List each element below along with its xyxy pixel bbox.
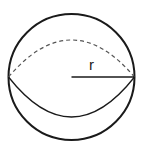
equator-front <box>9 77 135 117</box>
sphere-diagram: r <box>0 0 143 152</box>
radius-label: r <box>89 56 94 73</box>
equator-back-dashed <box>9 40 135 77</box>
